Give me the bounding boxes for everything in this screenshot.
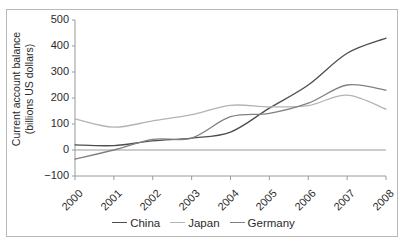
series-line-china [75, 38, 386, 146]
chart-legend: ChinaJapanGermany [0, 216, 407, 229]
legend-label: Japan [188, 217, 219, 229]
y-tick-label: 300 [35, 66, 69, 77]
chart-figure: Current account balance (billions US dol… [0, 0, 407, 252]
legend-line-swatch [230, 222, 245, 223]
legend-line-swatch [112, 222, 127, 223]
legend-item-germany: Germany [230, 216, 295, 229]
chart-frame: Current account balance (billions US dol… [6, 9, 398, 237]
legend-item-china: China [112, 216, 160, 229]
y-tick-label: 0 [35, 144, 69, 155]
y-tick-label: 400 [35, 40, 69, 51]
y-tick-label: 500 [35, 14, 69, 25]
series-line-japan [75, 95, 386, 127]
legend-label: China [130, 217, 160, 229]
legend-label: Germany [248, 217, 295, 229]
legend-item-japan: Japan [170, 216, 219, 229]
y-tick-label: 200 [35, 92, 69, 103]
y-tick-label: 100 [35, 118, 69, 129]
legend-line-swatch [170, 222, 185, 223]
y-tick-label: −100 [35, 170, 69, 181]
